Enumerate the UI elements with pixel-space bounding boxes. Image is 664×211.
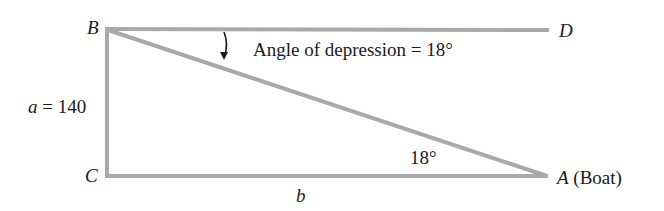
boat-note: (Boat) (573, 167, 622, 188)
side-b-label: b (296, 186, 306, 205)
side-a-label: a = 140 (28, 97, 86, 116)
point-label-D: D (559, 21, 573, 40)
angle-A-label: 18° (410, 148, 437, 167)
line-BD (105, 29, 549, 30)
point-label-A-group: A (Boat) (557, 168, 622, 187)
point-label-B: B (87, 18, 99, 37)
side-a-var: a (28, 96, 38, 117)
side-a-value: = 140 (38, 96, 87, 117)
point-label-A: A (557, 167, 569, 188)
angle-arrow-icon (220, 32, 228, 60)
angle-depression-label: Angle of depression = 18° (253, 40, 453, 59)
point-label-C: C (85, 166, 98, 185)
